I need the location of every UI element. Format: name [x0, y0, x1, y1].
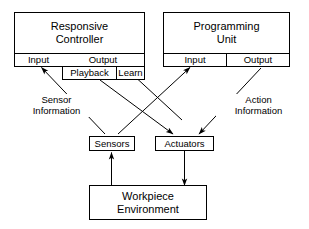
- programming-unit-title-box[interactable]: Programming Unit: [163, 12, 290, 53]
- edge-pu-to-rc-learn: [132, 74, 183, 121]
- responsive-controller-output-cell[interactable]: Output: [62, 53, 145, 67]
- responsive-controller-playback-label: Playback: [70, 67, 109, 78]
- programming-unit-output-cell[interactable]: Output: [226, 53, 290, 67]
- sensors-box[interactable]: Sensors: [89, 136, 135, 151]
- responsive-controller-title-line1: Responsive: [51, 20, 108, 33]
- responsive-controller-learn-label: Learn: [118, 67, 142, 78]
- responsive-controller-playback-cell[interactable]: Playback: [62, 66, 117, 80]
- responsive-controller-title-line2: Controller: [56, 33, 104, 46]
- action-information-label: Action Information: [216, 94, 301, 117]
- action-information-line1: Action: [216, 94, 301, 105]
- programming-unit-title-line1: Programming: [193, 20, 259, 33]
- sensors-label: Sensors: [95, 138, 130, 149]
- workpiece-environment-line1: Workpiece: [122, 190, 174, 203]
- actuators-box[interactable]: Actuators: [155, 136, 214, 151]
- sensor-information-line2: Information: [14, 105, 99, 116]
- action-information-line2: Information: [216, 105, 301, 116]
- programming-unit-input-cell[interactable]: Input: [163, 53, 227, 67]
- responsive-controller-input-cell[interactable]: Input: [14, 53, 63, 67]
- edge-rc-playback-to-actuators: [100, 80, 173, 134]
- responsive-controller-input-label: Input: [28, 54, 49, 65]
- sensor-information-label: Sensor Information: [14, 94, 99, 117]
- programming-unit-input-label: Input: [184, 54, 205, 65]
- responsive-controller-output-label: Output: [89, 54, 118, 65]
- workpiece-environment-box[interactable]: Workpiece Environment: [89, 185, 207, 220]
- sensor-information-line1: Sensor: [14, 94, 99, 105]
- diagram-canvas: Responsive Controller Input Output Playb…: [0, 0, 309, 229]
- programming-unit-output-label: Output: [244, 54, 273, 65]
- responsive-controller-learn-cell[interactable]: Learn: [116, 66, 145, 80]
- actuators-label: Actuators: [164, 138, 204, 149]
- responsive-controller-title-box[interactable]: Responsive Controller: [14, 12, 145, 53]
- workpiece-environment-line2: Environment: [117, 203, 179, 216]
- programming-unit-title-line2: Unit: [217, 33, 237, 46]
